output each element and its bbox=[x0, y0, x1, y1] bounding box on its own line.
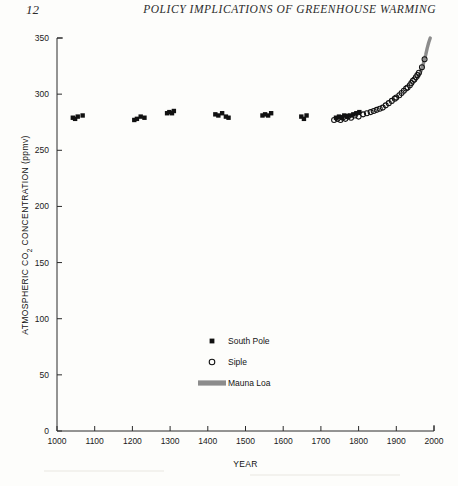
svg-text:1500: 1500 bbox=[236, 436, 255, 446]
y-axis-title: ATMOSPHERIC CO2 CONCENTRATION (ppmv) bbox=[20, 135, 33, 335]
scanned-page: 12 POLICY IMPLICATIONS OF GREENHOUSE WAR… bbox=[0, 0, 458, 486]
legend-label: Siple bbox=[228, 357, 247, 367]
scan-artifact bbox=[44, 470, 164, 472]
y-axis-ticks: 050100150200250300350 bbox=[35, 33, 62, 436]
legend-marker-south-pole bbox=[210, 339, 215, 344]
svg-text:1600: 1600 bbox=[274, 436, 293, 446]
scan-artifact bbox=[250, 474, 400, 476]
svg-text:200: 200 bbox=[35, 201, 49, 211]
series-south-pole bbox=[71, 109, 362, 122]
chart-legend: South PoleSipleMauna Loa bbox=[198, 336, 271, 388]
chart-axes bbox=[57, 38, 434, 431]
x-axis-ticks: 1000110012001300140015001600170018001900… bbox=[48, 426, 444, 446]
svg-text:1300: 1300 bbox=[161, 436, 180, 446]
svg-text:1000: 1000 bbox=[48, 436, 67, 446]
svg-text:1800: 1800 bbox=[349, 436, 368, 446]
chart-svg: 050100150200250300350 100011001200130014… bbox=[0, 0, 458, 486]
legend-label: Mauna Loa bbox=[228, 378, 271, 388]
legend-marker-mauna-loa bbox=[198, 380, 226, 385]
svg-text:2000: 2000 bbox=[425, 436, 444, 446]
legend-label: South Pole bbox=[228, 336, 270, 346]
svg-text:150: 150 bbox=[35, 258, 49, 268]
svg-text:350: 350 bbox=[35, 33, 49, 43]
svg-text:1700: 1700 bbox=[311, 436, 330, 446]
svg-text:1400: 1400 bbox=[198, 436, 217, 446]
svg-text:300: 300 bbox=[35, 89, 49, 99]
svg-text:1200: 1200 bbox=[123, 436, 142, 446]
co2-concentration-chart: 050100150200250300350 100011001200130014… bbox=[0, 0, 458, 486]
series-siple bbox=[332, 57, 427, 123]
svg-text:0: 0 bbox=[44, 426, 49, 436]
x-axis-title: YEAR bbox=[233, 459, 258, 469]
svg-text:50: 50 bbox=[40, 370, 50, 380]
svg-text:1100: 1100 bbox=[86, 436, 105, 446]
legend-marker-siple bbox=[209, 359, 215, 365]
svg-text:250: 250 bbox=[35, 145, 49, 155]
svg-text:1900: 1900 bbox=[387, 436, 406, 446]
svg-text:100: 100 bbox=[35, 314, 49, 324]
series-mauna-loa bbox=[418, 38, 430, 77]
